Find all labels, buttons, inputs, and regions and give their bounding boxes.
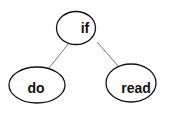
tree-diagram: if do read: [0, 0, 169, 113]
node-read-label: read: [121, 80, 151, 96]
edge-if-do: [49, 43, 69, 68]
diagram-canvas: [0, 0, 169, 113]
edge-if-read: [97, 42, 119, 67]
node-if-label: if: [81, 20, 90, 36]
node-do-label: do: [27, 80, 44, 96]
